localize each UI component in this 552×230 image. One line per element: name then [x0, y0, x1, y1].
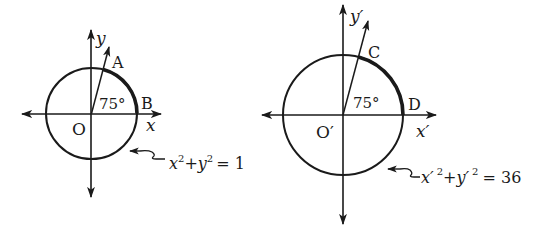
diagram-stage: y A 75° B x O x2+y2= 1 y′ C 75° D x′ O′	[0, 0, 552, 230]
y-axis-label: y	[95, 28, 106, 48]
x-axis-label: x	[146, 115, 156, 135]
radius-6-circle-diagram: y′ C 75° D x′ O′ x′2+y′2= 36	[262, 5, 521, 224]
x-prime-axis-label: x′	[416, 121, 430, 141]
y-prime-axis-label: y′	[349, 6, 364, 26]
equation-pointer	[130, 151, 165, 159]
point-b-label: B	[141, 94, 153, 113]
equation-pointer	[388, 169, 420, 177]
point-c-label: C	[368, 43, 380, 62]
origin-prime-label: O′	[316, 122, 334, 142]
point-a-label: A	[111, 53, 124, 72]
origin-label: O	[72, 119, 86, 139]
equation: x′2+y′2= 36	[421, 166, 521, 187]
unit-circle-diagram: y A 75° B x O x2+y2= 1	[22, 28, 245, 197]
point-d-label: D	[408, 95, 421, 114]
equation: x2+y2= 1	[169, 153, 245, 173]
angle-label: 75°	[353, 94, 380, 112]
figure: y A 75° B x O x2+y2= 1 y′ C 75° D x′ O′	[0, 0, 552, 230]
angle-label: 75°	[99, 95, 126, 113]
